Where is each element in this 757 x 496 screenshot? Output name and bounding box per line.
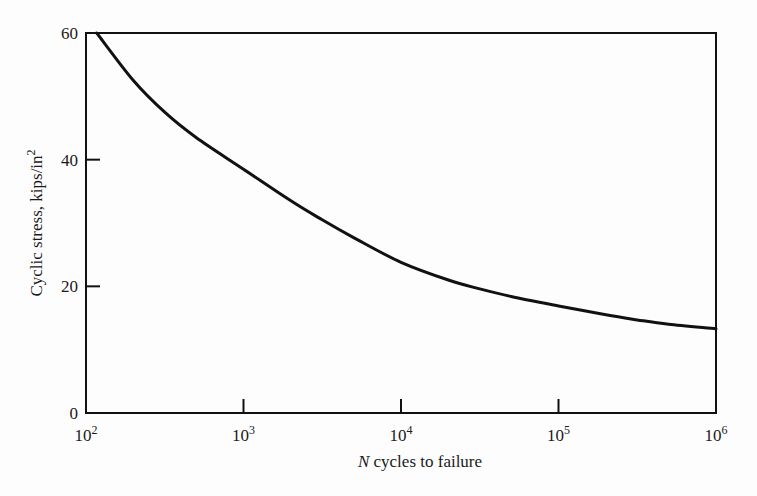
y-axis-title: Cyclic stress, kips/in2 bbox=[24, 149, 46, 296]
y-tick-label: 20 bbox=[61, 277, 78, 296]
y-tick-label: 60 bbox=[61, 24, 78, 43]
y-tick-label: 40 bbox=[61, 151, 78, 170]
x-tick-label: 103 bbox=[232, 423, 255, 445]
x-tick-label: 104 bbox=[390, 423, 413, 445]
sn-curve-chart: 0204060 102103104105106 N cycles to fail… bbox=[0, 0, 757, 496]
x-tick-label: 105 bbox=[547, 423, 570, 445]
x-axis-ticks: 102103104105106 bbox=[75, 399, 728, 445]
plot-frame bbox=[86, 33, 716, 413]
y-tick-label: 0 bbox=[70, 404, 79, 423]
x-axis-title: N cycles to failure bbox=[357, 452, 482, 471]
y-axis-ticks: 0204060 bbox=[61, 24, 100, 423]
x-tick-label: 106 bbox=[705, 423, 728, 445]
data-series-line bbox=[97, 33, 716, 329]
x-tick-label: 102 bbox=[75, 423, 98, 445]
